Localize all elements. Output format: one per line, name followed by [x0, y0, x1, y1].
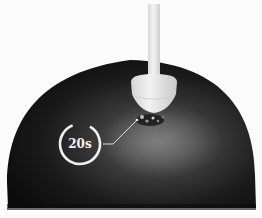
probe: [131, 4, 177, 113]
timer-label: 20s: [58, 134, 102, 154]
illustration: [0, 0, 262, 218]
